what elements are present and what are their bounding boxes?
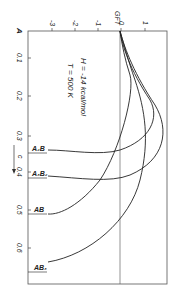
svg-text:-3: -3 (49, 20, 56, 26)
svg-text:-1: -1 (95, 20, 102, 26)
series-labels: A₂B A₃B₂ AB AB₃ (28, 145, 48, 272)
corner-label: A (15, 27, 24, 34)
x-axis-label: c (17, 155, 24, 159)
label-ab3: AB₃ (33, 264, 47, 271)
series-curves (48, 31, 163, 262)
curve-a2b (48, 31, 154, 153)
svg-text:0.6: 0.6 (16, 243, 23, 253)
label-a2b: A₂B (31, 145, 45, 152)
svg-text:0.4: 0.4 (16, 167, 23, 177)
svg-text:0.3: 0.3 (16, 131, 23, 141)
x-axis-tick-labels: 0.1 0.2 0.3 0.4 0.5 0.6 (16, 53, 23, 253)
svg-text:1: 1 (142, 21, 149, 25)
svg-text:0.5: 0.5 (16, 205, 23, 215)
curve-a3b2 (48, 31, 163, 179)
y-axis-tick-labels: -3 -2 -1 0 1 (49, 20, 149, 26)
annotations: H = -14 kcal/mol T = 500 K (66, 58, 88, 116)
curve-ab (48, 31, 131, 214)
label-a3b2: A₃B₂ (31, 170, 48, 177)
svg-text:T = 500 K: T = 500 K (66, 63, 75, 99)
svg-text:0.2: 0.2 (16, 91, 23, 101)
label-ab: AB (33, 206, 44, 213)
svg-text:H = -14 kcal/mol: H = -14 kcal/mol (79, 58, 88, 116)
y-axis-ticks (52, 28, 145, 31)
svg-text:0.1: 0.1 (16, 53, 23, 63)
plot-frame (28, 31, 167, 284)
y-axis-label: GFT (114, 11, 121, 26)
svg-text:-2: -2 (72, 20, 79, 26)
gft-chart: -3 -2 -1 0 1 GFT 0.1 0.2 0.3 0.4 0.5 0.6… (0, 0, 179, 299)
